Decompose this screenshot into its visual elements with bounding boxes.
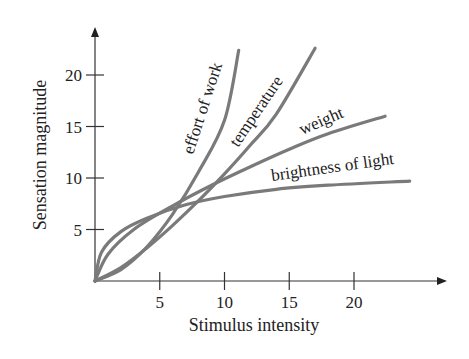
x-tick-label: 15	[281, 293, 298, 312]
label-brightness-of-light: brightness of light	[270, 149, 395, 185]
y-tick-label: 5	[74, 221, 83, 240]
x-axis-ticks: 5101520	[156, 272, 363, 312]
y-tick-label: 15	[65, 118, 82, 137]
label-effort-of-work: effort of work	[179, 59, 227, 156]
x-axis-title: Stimulus intensity	[189, 315, 320, 335]
x-tick-label: 5	[156, 293, 165, 312]
curve-brightness-of-light	[95, 181, 410, 281]
y-tick-label: 10	[65, 169, 82, 188]
x-tick-label: 20	[346, 293, 363, 312]
stevens-power-law-chart: 5101520 5101520 Stimulus intensity Sensa…	[0, 0, 469, 359]
y-axis-ticks: 5101520	[65, 66, 104, 240]
label-weight: weight	[296, 103, 346, 139]
x-tick-label: 10	[216, 293, 233, 312]
y-tick-label: 20	[65, 66, 82, 85]
y-axis-title: Sensation magnitude	[30, 80, 50, 230]
